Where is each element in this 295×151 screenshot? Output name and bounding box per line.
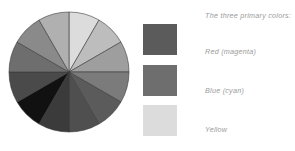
swatch-blue-cyan xyxy=(143,65,177,96)
legend-heading: The three primary colors: xyxy=(205,11,291,20)
legend-panel: The three primary colors: Red (magenta) … xyxy=(205,0,295,151)
wheel-slice-group xyxy=(9,12,129,132)
color-wheel-chart xyxy=(8,11,130,133)
swatch-red-magenta xyxy=(143,24,177,55)
swatch-column xyxy=(143,24,178,136)
color-wheel-figure: The three primary colors: Red (magenta) … xyxy=(0,0,295,151)
legend-label-yellow: Yellow xyxy=(205,125,227,134)
swatch-yellow xyxy=(143,105,177,136)
legend-label-blue-cyan: Blue (cyan) xyxy=(205,86,244,95)
legend-label-red-magenta: Red (magenta) xyxy=(205,47,256,56)
color-wheel-svg xyxy=(8,11,130,133)
